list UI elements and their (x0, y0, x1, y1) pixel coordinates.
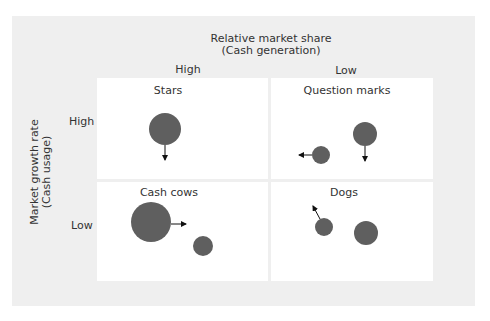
bubbles-and-arrows-layer (0, 0, 490, 321)
cash-cows-bubble-large (131, 202, 171, 242)
stars-bubble (149, 113, 181, 145)
cash-cows-bubble-small (193, 236, 213, 256)
dogs-arrow-up-left (313, 206, 320, 219)
question-marks-bubble-small (312, 146, 330, 164)
dogs-bubble-large (354, 221, 378, 245)
dogs-bubble-small (315, 218, 333, 236)
question-marks-bubble-large (353, 122, 377, 146)
